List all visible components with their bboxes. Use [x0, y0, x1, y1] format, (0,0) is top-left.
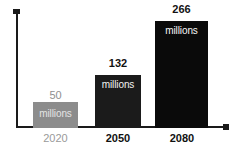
- x-axis-end-marker-icon: [223, 124, 229, 130]
- bar-chart: millions millions millions 50 132 266 20…: [0, 0, 246, 154]
- bar-unit-label-2080: millions: [155, 25, 208, 36]
- bar-unit-label-2050: millions: [95, 79, 141, 90]
- x-axis-tick-label-2020: 2020: [28, 132, 83, 144]
- bar-value-label-2050: 132: [95, 57, 141, 69]
- y-axis-line: [16, 12, 18, 128]
- bar-2050: millions: [95, 75, 141, 128]
- x-axis-tick-label-2080: 2080: [154, 132, 210, 144]
- bar-value-label-2080: 266: [155, 3, 208, 15]
- bar-2020: millions: [33, 102, 78, 128]
- y-axis-end-marker-icon: [13, 9, 20, 14]
- bar-value-label-2020: 50: [33, 89, 78, 101]
- bar-2080: millions: [155, 21, 208, 128]
- x-axis-tick-label-2050: 2050: [90, 132, 146, 144]
- bar-unit-label-2020: millions: [33, 108, 78, 119]
